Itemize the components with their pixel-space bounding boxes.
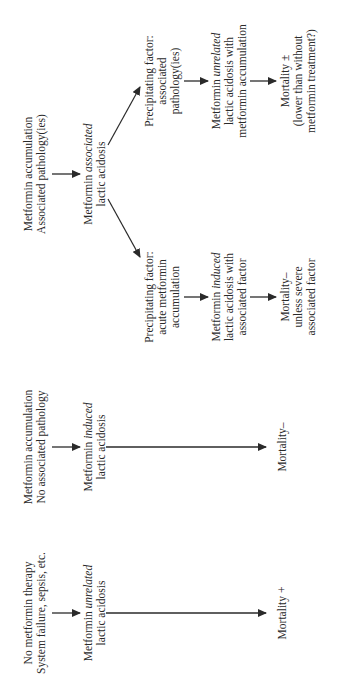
arrow-associated-to-acute (108, 199, 140, 257)
node-unrelated-with-accumulation: Metformin unrelated lactic acidosis with… (210, 24, 249, 137)
node-unrelated-lactic-acidosis: Metformin unrelated lactic acidosis (82, 565, 108, 661)
node-induced-lactic-acidosis: Metformin induced lactic acidosis (82, 402, 108, 491)
context-accumulation-with-pathology: Metformin accumulation Associated pathol… (22, 114, 48, 234)
node-induced-with-associated-factor: Metformin induced lactic acidosis with a… (210, 252, 249, 341)
mortality-minus-unless-severe: Mortality– unless severe associated fact… (279, 259, 318, 336)
precipitating-acute-accumulation: Precipitating factor: acute metformin ac… (143, 251, 182, 343)
context-no-metformin: No metformin therapy System failure, sep… (22, 552, 48, 674)
mortality-minus: Mortality– (276, 422, 289, 471)
arrow-associated-to-pathology (108, 87, 140, 145)
context-accumulation-no-pathology: Metformin accumulation No associated pat… (22, 390, 48, 505)
precipitating-associated-pathology: Precipitating factor: associated patholo… (143, 35, 182, 127)
node-associated-lactic-acidosis: Metformin associated lactic acidosis (82, 123, 108, 224)
mortality-plus-minus: Mortality ± (lower than without metformi… (279, 29, 318, 133)
mortality-plus: Mortality + (276, 587, 289, 640)
